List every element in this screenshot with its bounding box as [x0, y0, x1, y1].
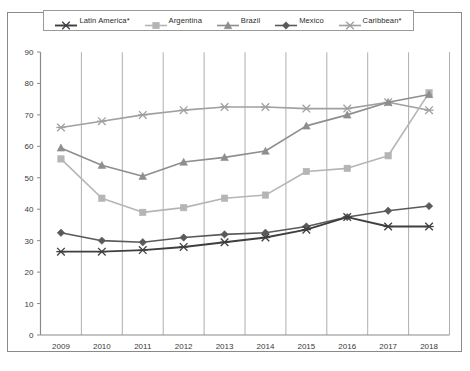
legend-item-argentina[interactable]: Argentina [145, 16, 202, 25]
legend-swatch-mexico [275, 16, 297, 25]
chart-figure: 0102030405060708090200920102011201220132… [0, 0, 470, 371]
data-marker [385, 153, 391, 159]
legend-swatch-argentina [145, 16, 167, 25]
y-tick-label: 90 [25, 48, 34, 57]
legend-item-brazil[interactable]: Brazil [217, 16, 261, 25]
data-marker [152, 22, 158, 28]
x-tick-label: 2010 [93, 342, 111, 351]
y-tick-label: 50 [25, 174, 34, 183]
legend-label-latin-america: Latin America* [79, 16, 129, 25]
chart-legend: Latin America* Argentina Brazil Mexico C… [43, 10, 414, 31]
data-marker [303, 168, 309, 174]
y-tick-label: 10 [25, 300, 34, 309]
x-tick-label: 2011 [134, 342, 152, 351]
legend-swatch-caribbean [339, 16, 361, 25]
figure-caption [10, 360, 310, 369]
legend-label-mexico: Mexico [299, 16, 324, 25]
x-tick-label: 2012 [175, 342, 193, 351]
legend-item-latin-america[interactable]: Latin America* [55, 16, 129, 25]
legend-item-mexico[interactable]: Mexico [275, 16, 324, 25]
y-tick-label: 80 [25, 79, 34, 88]
x-tick-label: 2009 [52, 342, 70, 351]
legend-label-brazil: Brazil [241, 16, 261, 25]
x-tick-label: 2017 [379, 342, 397, 351]
x-tick-label: 2018 [420, 342, 438, 351]
x-tick-label: 2013 [216, 342, 234, 351]
legend-swatch-brazil [217, 16, 239, 25]
legend-item-caribbean[interactable]: Caribbean* [339, 16, 402, 25]
y-tick-label: 40 [25, 205, 34, 214]
data-marker [344, 165, 350, 171]
legend-label-caribbean: Caribbean* [363, 16, 402, 25]
y-tick-label: 30 [25, 237, 34, 246]
data-marker [140, 209, 146, 215]
data-marker [99, 195, 105, 201]
legend-swatch-latin-america [55, 16, 77, 25]
line-chart-plot: 0102030405060708090200920102011201220132… [0, 0, 470, 371]
data-marker [58, 156, 64, 162]
x-tick-label: 2014 [257, 342, 275, 351]
y-tick-label: 70 [25, 111, 34, 120]
y-tick-label: 0 [29, 331, 34, 340]
data-marker [262, 192, 268, 198]
legend-label-argentina: Argentina [169, 16, 202, 25]
data-marker [221, 195, 227, 201]
data-marker [180, 204, 186, 210]
x-tick-label: 2016 [338, 342, 356, 351]
y-tick-label: 20 [25, 268, 34, 277]
x-tick-label: 2015 [297, 342, 315, 351]
y-tick-label: 60 [25, 142, 34, 151]
data-marker [282, 22, 289, 29]
